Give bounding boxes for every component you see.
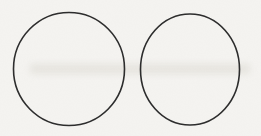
two-circles-diagram [0,0,261,136]
figure-canvas [0,0,261,136]
